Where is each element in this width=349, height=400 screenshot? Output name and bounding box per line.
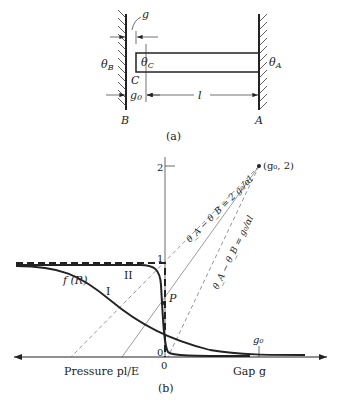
figure: g θB θC θA C g0 l B A (a) 2 1: [0, 0, 349, 400]
part-a-diagram: g θB θC θA C g0 l B A (a): [101, 8, 282, 143]
curve-fr-label: f (R): [62, 274, 87, 287]
curve-ii-label: II: [124, 269, 133, 282]
caption-b: (b): [158, 382, 174, 395]
theta-a-label: θA: [269, 56, 282, 70]
beam: [136, 53, 259, 72]
point-g0-2-label: (g₀, 2): [263, 160, 294, 171]
length-l-label: l: [198, 89, 202, 102]
theta-c-label: θC: [141, 56, 154, 70]
g0-label: g0: [130, 89, 142, 102]
point-c-label: C: [131, 74, 140, 87]
y-tick-0: 0: [157, 347, 163, 358]
theta-b-label: θB: [101, 58, 114, 72]
point-p-label: P: [168, 292, 177, 305]
wall-a-label: A: [254, 114, 263, 127]
pressure-axis-label: Pressure pl/E: [64, 365, 139, 378]
y-tick-1: 1: [157, 253, 163, 264]
part-b-plot: 2 1 0 0 (g₀, 2) θ_A − θ_B = 2 g₀/αl θ_A …: [14, 157, 327, 395]
gap-axis-label: Gap g: [233, 365, 266, 378]
gap-g-label: g: [142, 8, 149, 21]
wall-a: [259, 14, 267, 110]
y-tick-2: 2: [157, 162, 163, 173]
curve-i-label: I: [106, 285, 110, 298]
line-label-g0: θ_A − θ_B = g₀/αl: [211, 214, 256, 292]
g0-tick-label: g₀: [253, 334, 263, 345]
caption-a: (a): [166, 130, 181, 143]
wall-b-label: B: [120, 114, 129, 127]
x-origin-label: 0: [161, 360, 167, 371]
